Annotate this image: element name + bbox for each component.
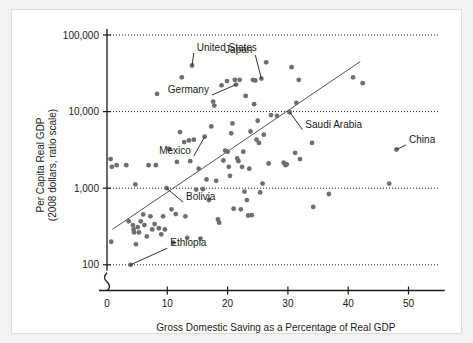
data-point bbox=[266, 161, 271, 166]
data-point bbox=[114, 163, 119, 168]
data-point bbox=[179, 75, 184, 80]
y-tick-label-10,000: 10,000 bbox=[68, 106, 99, 117]
data-point bbox=[161, 214, 166, 219]
annotation-label-germany: Germany bbox=[168, 84, 209, 95]
data-point bbox=[191, 137, 196, 142]
data-point bbox=[138, 219, 143, 224]
data-point bbox=[248, 129, 253, 134]
data-point bbox=[109, 239, 114, 244]
data-point bbox=[241, 149, 246, 154]
data-point bbox=[159, 232, 164, 237]
data-point bbox=[311, 204, 316, 209]
data-point bbox=[240, 164, 245, 169]
data-point bbox=[212, 103, 217, 108]
data-point bbox=[228, 173, 233, 178]
data-point bbox=[296, 77, 301, 82]
data-point bbox=[175, 160, 180, 165]
x-tick-label-0: 0 bbox=[104, 298, 110, 309]
data-point bbox=[237, 77, 242, 82]
annotation-label-china: China bbox=[409, 134, 436, 145]
data-point bbox=[204, 177, 209, 182]
annotation-label-saudi-arabia: Saudi Arabia bbox=[305, 119, 362, 130]
data-point bbox=[298, 157, 303, 162]
data-point bbox=[214, 178, 219, 183]
data-point bbox=[217, 220, 222, 225]
data-point bbox=[234, 82, 239, 87]
data-point bbox=[255, 118, 260, 123]
data-point bbox=[289, 65, 294, 70]
data-point bbox=[134, 242, 139, 247]
data-point bbox=[155, 92, 160, 97]
data-point bbox=[187, 138, 192, 143]
data-point bbox=[108, 157, 113, 162]
data-point bbox=[394, 147, 399, 152]
data-point bbox=[360, 81, 365, 86]
x-tick-label-30: 30 bbox=[282, 298, 294, 309]
x-tick-label-40: 40 bbox=[343, 298, 355, 309]
leader-line-saudi-arabia bbox=[290, 112, 303, 129]
leader-line-bolivia bbox=[167, 188, 183, 202]
data-point bbox=[260, 181, 265, 186]
data-point bbox=[230, 121, 235, 126]
data-point bbox=[387, 181, 392, 186]
data-point bbox=[242, 189, 247, 194]
data-point bbox=[109, 164, 114, 169]
data-point bbox=[219, 83, 224, 88]
data-point bbox=[209, 124, 214, 129]
x-tick-label-10: 10 bbox=[162, 298, 174, 309]
data-point bbox=[169, 207, 174, 212]
data-point bbox=[135, 225, 140, 230]
y-axis-break-icon bbox=[105, 273, 110, 291]
y-tick-label-1,000: 1,000 bbox=[74, 183, 99, 194]
data-point bbox=[258, 190, 263, 195]
data-point bbox=[196, 166, 201, 171]
data-point bbox=[244, 198, 249, 203]
data-point bbox=[173, 212, 178, 217]
data-point bbox=[264, 60, 269, 65]
data-point bbox=[243, 94, 248, 99]
data-point bbox=[229, 131, 234, 136]
data-point bbox=[226, 164, 231, 169]
annotation-label-bolivia: Bolivia bbox=[186, 191, 216, 202]
data-point bbox=[148, 214, 153, 219]
data-point bbox=[253, 78, 258, 83]
data-point bbox=[153, 163, 158, 168]
y-tick-label-100,000: 100,000 bbox=[63, 30, 100, 41]
data-point bbox=[351, 75, 356, 80]
x-tick-label-50: 50 bbox=[403, 298, 415, 309]
data-point bbox=[284, 162, 289, 167]
data-point bbox=[137, 230, 142, 235]
figure-background: 1001,00010,000100,00001020304050Gross Do… bbox=[0, 0, 473, 343]
data-point bbox=[269, 113, 274, 118]
data-point bbox=[142, 223, 147, 228]
x-tick-label-20: 20 bbox=[222, 298, 234, 309]
y-axis-title-line1: Per Capita Real GDP bbox=[35, 117, 46, 212]
data-point bbox=[141, 212, 146, 217]
data-point bbox=[156, 226, 161, 231]
x-axis-title: Gross Domestic Saving as a Percentage of… bbox=[156, 322, 395, 333]
data-point bbox=[327, 192, 332, 197]
data-point bbox=[144, 234, 149, 239]
data-point bbox=[249, 213, 254, 218]
data-point bbox=[182, 140, 187, 145]
data-point bbox=[232, 77, 237, 82]
data-point bbox=[231, 206, 236, 211]
data-point bbox=[152, 222, 157, 227]
data-point bbox=[225, 149, 230, 154]
y-tick-label-100: 100 bbox=[82, 259, 99, 270]
data-point bbox=[131, 223, 136, 228]
data-point bbox=[252, 102, 257, 107]
data-point bbox=[294, 100, 299, 105]
data-point bbox=[178, 130, 183, 135]
data-point bbox=[162, 227, 167, 232]
annotation-label-japan: Japan bbox=[225, 44, 252, 55]
data-point bbox=[257, 141, 262, 146]
data-point bbox=[225, 79, 230, 84]
leader-line-germany bbox=[212, 85, 236, 95]
scatter-chart: 1001,00010,000100,00001020304050Gross Do… bbox=[0, 0, 473, 343]
data-point bbox=[221, 158, 226, 163]
annotation-label-mexico: Mexico bbox=[159, 145, 191, 156]
data-point bbox=[293, 150, 298, 155]
leader-line-china bbox=[396, 145, 406, 150]
data-point bbox=[188, 159, 193, 164]
